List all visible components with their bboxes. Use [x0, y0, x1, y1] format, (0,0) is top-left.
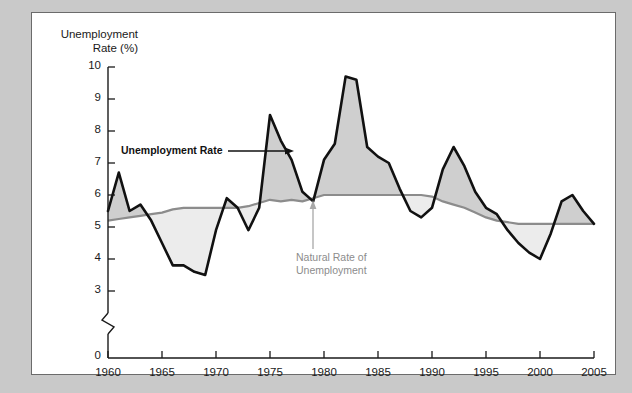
- natural-rate-annotation: Natural Rate of Unemployment: [296, 251, 367, 276]
- x-tick-label: 1960: [88, 366, 128, 378]
- y-tick-label: 6: [75, 187, 101, 199]
- x-tick-label: 1980: [304, 366, 344, 378]
- figure-background: Unemployment Rate (%) Unemployment Rate …: [0, 0, 632, 393]
- x-tick-label: 1970: [196, 366, 236, 378]
- chart-plot-area: [32, 13, 617, 376]
- x-tick-label: 1985: [358, 366, 398, 378]
- y-axis-break-mark: [102, 313, 114, 334]
- y-tick-label: 4: [75, 251, 101, 263]
- x-tick-label: 1965: [142, 366, 182, 378]
- x-tick-label: 2000: [520, 366, 560, 378]
- x-tick-label: 2005: [574, 366, 614, 378]
- y-tick-label: 9: [75, 91, 101, 103]
- x-tick-label: 1975: [250, 366, 290, 378]
- y-tick-label: 8: [75, 123, 101, 135]
- y-tick-label: 7: [75, 155, 101, 167]
- x-tick-label: 1995: [466, 366, 506, 378]
- y-tick-label: 5: [75, 219, 101, 231]
- x-tick-label: 1990: [412, 366, 452, 378]
- chart-panel: Unemployment Rate (%) Unemployment Rate …: [31, 12, 616, 375]
- unemployment-rate-annotation: Unemployment Rate: [121, 144, 223, 156]
- natural-rate-arrow-head: [310, 200, 317, 209]
- y-tick-label: 10: [75, 59, 101, 71]
- y-zero-label: 0: [75, 349, 101, 361]
- y-tick-label: 3: [75, 283, 101, 295]
